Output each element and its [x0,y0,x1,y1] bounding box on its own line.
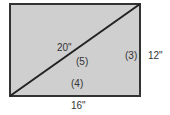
diagonal-ratio-label: (5) [76,57,88,67]
width-ratio-label: (4) [71,79,83,89]
height-length-label: 12" [148,51,163,61]
height-ratio-label: (3) [125,51,137,61]
diagonal-length-label: 20" [57,43,72,53]
width-length-label: 16" [71,101,86,111]
